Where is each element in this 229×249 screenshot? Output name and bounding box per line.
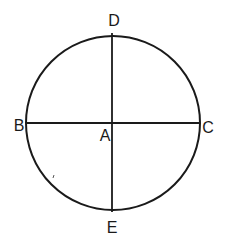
point-label-e: E bbox=[107, 219, 118, 236]
point-label-c: C bbox=[202, 119, 214, 136]
point-label-b: B bbox=[14, 117, 25, 134]
circle-diagram: D B C A E bbox=[0, 0, 229, 249]
point-label-d: D bbox=[108, 12, 120, 29]
stray-mark bbox=[53, 175, 54, 178]
point-label-a: A bbox=[100, 127, 111, 144]
